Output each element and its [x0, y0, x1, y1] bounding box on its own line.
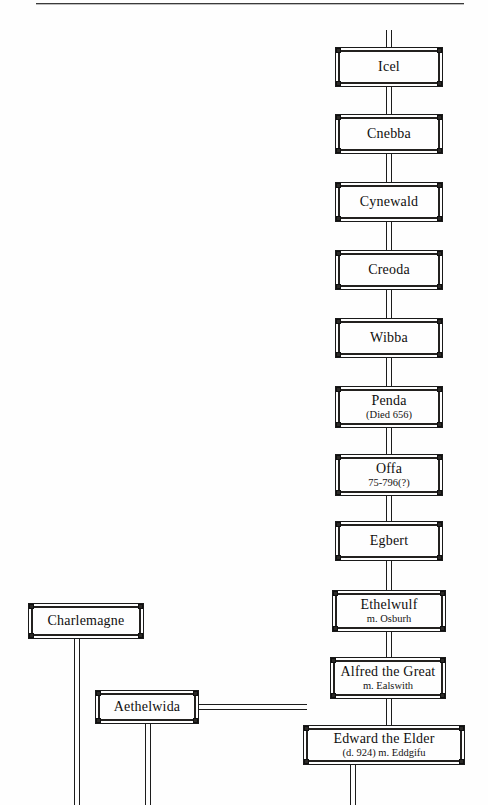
node-title-ethelwulf: Ethelwulf — [360, 597, 417, 612]
connector-edward-descender — [350, 761, 356, 805]
node-title-icel: Icel — [378, 59, 400, 74]
node-title-cnebba: Cnebba — [367, 126, 411, 141]
node-inner-frame-penda: Penda(Died 656) — [338, 389, 440, 425]
node-inner-frame-charlemagne: Charlemagne — [31, 606, 141, 636]
node-title-alfred: Alfred the Great — [341, 664, 436, 679]
node-inner-frame-ethelwulf: Ethelwulfm. Osburh — [335, 593, 443, 629]
connector-wibba-to-penda — [386, 354, 392, 390]
node-box-charlemagne[interactable]: Charlemagne — [28, 603, 144, 639]
connector-egbert-to-ethelwulf — [386, 557, 392, 594]
connector-aethelwida-descender — [145, 720, 151, 805]
node-inner-frame-offa: Offa75-796(?) — [338, 457, 440, 493]
node-box-aethelwida[interactable]: Aethelwida — [95, 690, 199, 724]
node-inner-frame-aethelwida: Aethelwida — [98, 693, 196, 721]
node-title-charlemagne: Charlemagne — [48, 613, 125, 628]
node-title-wibba: Wibba — [370, 330, 408, 345]
node-title-offa: Offa — [376, 461, 402, 476]
node-inner-frame-alfred: Alfred the Greatm. Ealswith — [333, 660, 443, 696]
connector-penda-to-offa — [386, 424, 392, 458]
connector-icel-to-cnebba — [386, 83, 392, 118]
node-inner-frame-creoda: Creoda — [338, 253, 440, 287]
node-box-creoda[interactable]: Creoda — [335, 250, 443, 290]
node-box-penda[interactable]: Penda(Died 656) — [335, 386, 443, 428]
node-subtitle-alfred: m. Ealswith — [363, 680, 413, 692]
genealogy-chart-page: IcelCnebbaCynewaldCreodaWibbaPenda(Died … — [0, 0, 488, 805]
node-title-aethelwida: Aethelwida — [114, 699, 181, 714]
node-box-edward[interactable]: Edward the Elder(d. 924) m. Eddgifu — [303, 725, 465, 765]
node-box-cynewald[interactable]: Cynewald — [335, 182, 443, 222]
connector-creoda-to-wibba — [386, 286, 392, 322]
node-subtitle-ethelwulf: m. Osburh — [367, 613, 411, 625]
node-box-cnebba[interactable]: Cnebba — [335, 114, 443, 154]
connector-charlemagne-descender — [74, 635, 80, 805]
connector-alfred-to-edward — [386, 695, 392, 729]
node-subtitle-offa: 75-796(?) — [368, 477, 409, 489]
node-box-ethelwulf[interactable]: Ethelwulfm. Osburh — [332, 590, 446, 632]
node-title-cynewald: Cynewald — [360, 194, 418, 209]
node-box-wibba[interactable]: Wibba — [335, 318, 443, 358]
connector-cynewald-to-creoda — [386, 218, 392, 254]
node-subtitle-edward: (d. 924) m. Eddgifu — [342, 747, 425, 759]
connector-cnebba-to-cynewald — [386, 150, 392, 186]
node-inner-frame-icel: Icel — [338, 50, 440, 84]
top-horizontal-rule — [36, 3, 464, 5]
node-inner-frame-cynewald: Cynewald — [338, 185, 440, 219]
node-inner-frame-edward: Edward the Elder(d. 924) m. Eddgifu — [306, 728, 462, 762]
node-box-icel[interactable]: Icel — [335, 47, 443, 87]
node-inner-frame-cnebba: Cnebba — [338, 117, 440, 151]
node-subtitle-penda: (Died 656) — [366, 409, 412, 421]
node-inner-frame-egbert: Egbert — [338, 524, 440, 558]
connector-aethelwida-to-edward — [195, 704, 307, 710]
node-title-penda: Penda — [371, 393, 406, 408]
node-box-alfred[interactable]: Alfred the Greatm. Ealswith — [330, 657, 446, 699]
node-title-edward: Edward the Elder — [333, 731, 434, 746]
node-title-egbert: Egbert — [370, 533, 409, 548]
node-box-egbert[interactable]: Egbert — [335, 521, 443, 561]
node-title-creoda: Creoda — [368, 262, 410, 277]
node-inner-frame-wibba: Wibba — [338, 321, 440, 355]
node-box-offa[interactable]: Offa75-796(?) — [335, 454, 443, 496]
